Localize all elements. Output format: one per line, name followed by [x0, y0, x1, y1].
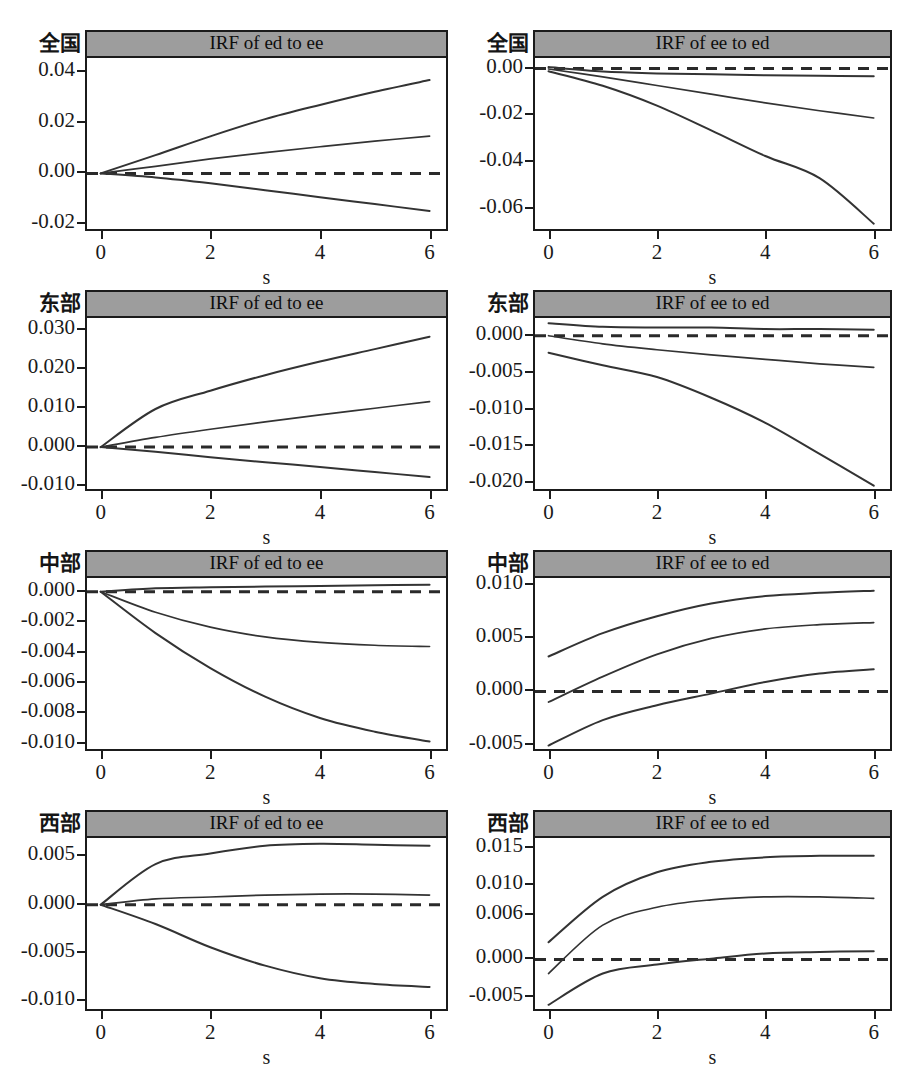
- plot-box: IRF of ee to ed: [533, 550, 892, 751]
- plot-canvas: [87, 58, 446, 233]
- y-tick-mark: [77, 711, 85, 713]
- panel-title-bar: IRF of ed to ee: [87, 552, 446, 578]
- y-tick-mark: [77, 742, 85, 744]
- panel-title-text: IRF of ed to ee: [210, 812, 324, 833]
- y-tick-mark: [525, 207, 533, 209]
- x-tick-label: 0: [529, 1022, 569, 1043]
- plot-canvas: [87, 578, 446, 753]
- irf-series-line: [101, 905, 430, 987]
- x-tick-label: 0: [81, 762, 121, 783]
- x-tick-label: 0: [81, 502, 121, 523]
- y-tick-mark: [525, 636, 533, 638]
- panel-title-bar: IRF of ee to ed: [535, 292, 890, 318]
- y-tick-mark: [77, 171, 85, 173]
- plot-box: IRF of ee to ed: [533, 30, 892, 231]
- x-tick-label: 6: [410, 242, 450, 263]
- x-tick-label: 2: [190, 502, 230, 523]
- irf-series-line: [101, 894, 430, 905]
- y-tick-label: 0.02: [0, 110, 75, 131]
- x-tick-label: 4: [300, 502, 340, 523]
- y-tick-label: 0.005: [441, 625, 523, 646]
- y-tick-mark: [525, 408, 533, 410]
- y-tick-label: 0.00: [0, 160, 75, 181]
- plot-canvas: [535, 838, 890, 1013]
- plot-canvas: [87, 838, 446, 1013]
- x-axis-title: s: [242, 527, 292, 547]
- y-tick-label: 0.015: [441, 835, 523, 856]
- panel-title-text: IRF of ee to ed: [656, 32, 770, 53]
- x-axis-title: s: [242, 1047, 292, 1066]
- y-tick-mark: [525, 113, 533, 115]
- irf-series-line: [101, 80, 430, 173]
- panel-title-bar: IRF of ee to ed: [535, 552, 890, 578]
- x-tick-label: 0: [529, 502, 569, 523]
- y-tick-mark: [525, 957, 533, 959]
- y-tick-label: 0.006: [441, 902, 523, 923]
- y-tick-mark: [77, 590, 85, 592]
- y-tick-mark: [77, 999, 85, 1001]
- y-tick-label: -0.02: [441, 102, 523, 123]
- panel-title-text: IRF of ee to ed: [656, 552, 770, 573]
- y-tick-label: -0.020: [441, 470, 523, 491]
- x-axis-title: s: [688, 787, 738, 807]
- y-tick-mark: [77, 70, 85, 72]
- x-axis-title: s: [688, 267, 738, 287]
- y-tick-label: -0.002: [0, 609, 75, 630]
- panel-title-bar: IRF of ed to ee: [87, 292, 446, 318]
- y-tick-label: -0.004: [0, 640, 75, 661]
- x-tick-label: 0: [529, 762, 569, 783]
- y-tick-label: 0.00: [441, 56, 523, 77]
- x-tick-label: 4: [745, 762, 785, 783]
- irf-series-line: [101, 592, 430, 647]
- x-tick-label: 6: [854, 1022, 894, 1043]
- y-tick-label: 0.030: [0, 317, 75, 338]
- y-tick-label: 0.005: [0, 843, 75, 864]
- panel-title-bar: IRF of ee to ed: [535, 32, 890, 58]
- y-tick-mark: [525, 883, 533, 885]
- panel-region-label: 中部: [467, 551, 529, 575]
- panel-region-label: 西部: [19, 811, 81, 835]
- y-tick-mark: [525, 913, 533, 915]
- irf-series-line: [101, 592, 430, 742]
- y-tick-label: -0.005: [0, 940, 75, 961]
- y-tick-label: -0.005: [441, 732, 523, 753]
- x-tick-label: 4: [745, 1022, 785, 1043]
- y-tick-label: -0.010: [441, 397, 523, 418]
- x-tick-label: 4: [745, 242, 785, 263]
- x-tick-label: 6: [410, 1022, 450, 1043]
- y-tick-label: 0.000: [0, 434, 75, 455]
- y-tick-mark: [77, 222, 85, 224]
- x-tick-label: 2: [190, 762, 230, 783]
- y-tick-mark: [77, 681, 85, 683]
- y-tick-mark: [525, 481, 533, 483]
- y-tick-label: 0.000: [441, 678, 523, 699]
- y-tick-label: 0.000: [441, 323, 523, 344]
- y-tick-mark: [525, 743, 533, 745]
- y-tick-mark: [77, 121, 85, 123]
- x-tick-label: 4: [300, 762, 340, 783]
- irf-series-line: [549, 323, 874, 330]
- x-tick-label: 2: [637, 1022, 677, 1043]
- x-tick-label: 2: [637, 502, 677, 523]
- x-tick-label: 6: [854, 242, 894, 263]
- plot-box: IRF of ed to ee: [85, 30, 448, 231]
- irf-series-line: [101, 337, 430, 447]
- y-tick-label: -0.005: [441, 984, 523, 1005]
- panel-region-label: 全国: [467, 31, 529, 55]
- y-tick-mark: [525, 846, 533, 848]
- x-tick-label: 4: [300, 1022, 340, 1043]
- x-axis-title: s: [242, 787, 292, 807]
- panel-title-bar: IRF of ed to ee: [87, 812, 446, 838]
- x-tick-label: 6: [854, 762, 894, 783]
- y-tick-label: -0.010: [0, 731, 75, 752]
- irf-series-line: [101, 402, 430, 448]
- panel-title-text: IRF of ee to ed: [656, 292, 770, 313]
- x-tick-label: 2: [190, 242, 230, 263]
- y-tick-label: 0.000: [0, 579, 75, 600]
- y-tick-label: 0.020: [0, 356, 75, 377]
- x-tick-label: 2: [637, 762, 677, 783]
- y-tick-label: 0.000: [441, 946, 523, 967]
- plot-box: IRF of ed to ee: [85, 550, 448, 751]
- y-tick-label: -0.015: [441, 433, 523, 454]
- panel-region-label: 西部: [467, 811, 529, 835]
